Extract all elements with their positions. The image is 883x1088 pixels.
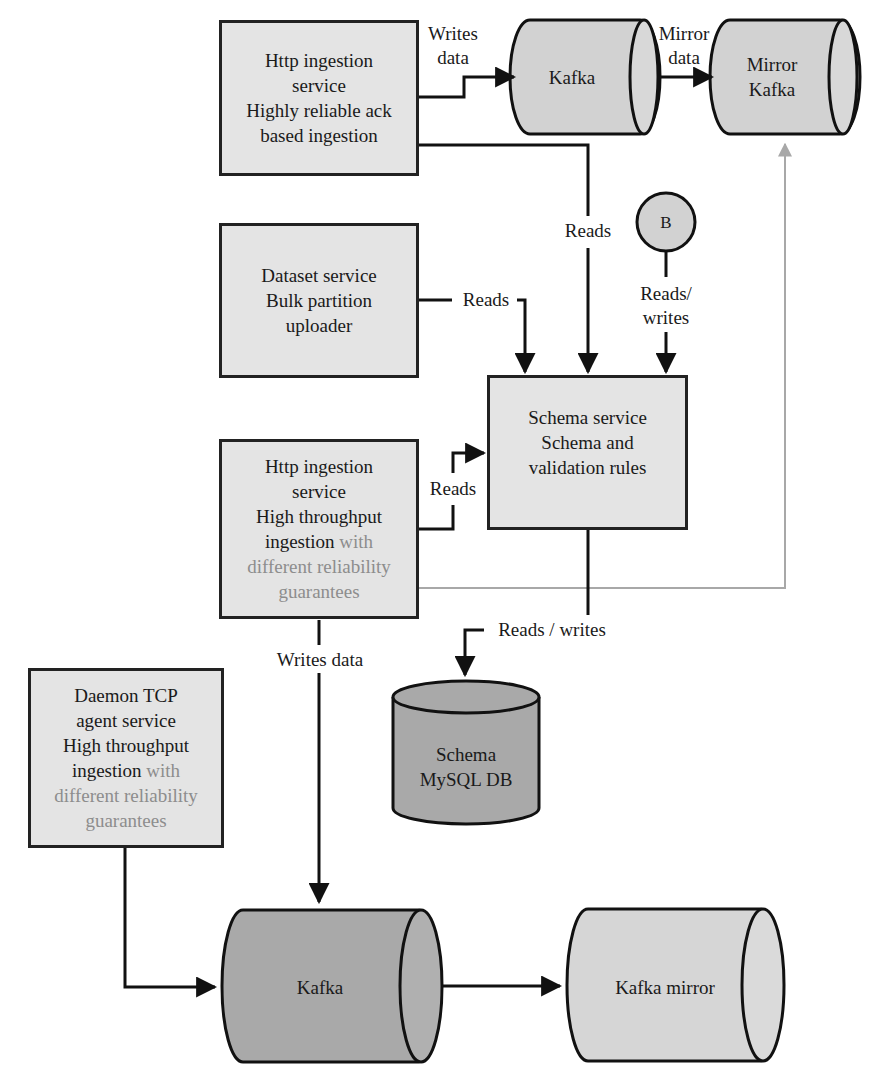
http-reliable-ingestion-box: Http ingestion service Highly reliable a… (219, 20, 419, 176)
label-text: Reads (565, 220, 611, 241)
box-line: Dataset service (261, 263, 377, 288)
box-line: Highly reliable ack (246, 98, 392, 123)
edge-daemon-to-kafka (125, 846, 215, 987)
label-text: data (423, 46, 483, 70)
edge-label-writes-data-top: Writes data (423, 22, 483, 70)
label-text: Kafka (297, 975, 343, 1000)
label-text: Kafka (549, 65, 595, 90)
label-text: B (660, 210, 671, 235)
edge-label-reads-http-top: Reads (558, 219, 618, 243)
box-line-muted: guarantees (54, 808, 198, 833)
box-line: Schema and (528, 430, 647, 455)
text-muted: with (142, 760, 181, 781)
box-line-mixed: ingestion with (247, 529, 391, 554)
edge-label-reads-http-mid: Reads (424, 477, 482, 501)
dataset-service-box: Dataset service Bulk partition uploader (219, 223, 419, 378)
edge-label-writes-data-mid: Writes data (268, 648, 372, 672)
text-dark: ingestion (265, 531, 335, 552)
label-text: Schema (436, 742, 496, 767)
edge-reads-http-mid (417, 505, 453, 529)
label-text: Reads / writes (498, 619, 606, 640)
box-line: uploader (261, 313, 377, 338)
label-text: Reads/ (628, 282, 704, 306)
label-text: writes (628, 306, 704, 330)
box-line-muted: guarantees (247, 579, 391, 604)
schema-db-label: Schema MySQL DB (393, 740, 539, 794)
edge-reads-dataset (517, 300, 525, 372)
label-text: data (653, 46, 715, 70)
daemon-tcp-agent-box: Daemon TCP agent service High throughput… (28, 668, 224, 848)
label-text: Writes data (277, 649, 363, 670)
box-line: Daemon TCP (54, 683, 198, 708)
edge-label-reads-writes-db: Reads / writes (490, 618, 614, 642)
label-text: Reads (430, 478, 476, 499)
kafka-bottom-label: Kafka (250, 970, 390, 1004)
box-line: service (246, 73, 392, 98)
b-circle-label: B (646, 208, 686, 236)
box-line: validation rules (528, 455, 647, 480)
label-text: Reads (463, 289, 509, 310)
box-line: High throughput (54, 733, 198, 758)
edge-reads-http-top (417, 145, 588, 216)
kafka-top-label: Kafka (512, 60, 632, 94)
label-text: Mirror (747, 52, 798, 77)
text-dark: ingestion (72, 760, 142, 781)
mirror-kafka-top-label: Mirror Kafka (712, 50, 832, 104)
label-text: Kafka mirror (615, 975, 715, 1000)
kafka-mirror-bottom-label: Kafka mirror (590, 970, 740, 1004)
box-line: Bulk partition (261, 288, 377, 313)
box-line-muted: different reliability (247, 554, 391, 579)
box-line: Http ingestion (247, 454, 391, 479)
label-text: Writes (423, 22, 483, 46)
edge-writes-data-top (417, 77, 514, 97)
box-line: High throughput (247, 504, 391, 529)
edge-reads-writes-db (465, 630, 484, 675)
box-line-mixed: ingestion with (54, 758, 198, 783)
text-muted: with (335, 531, 374, 552)
box-line: Http ingestion (246, 48, 392, 73)
http-throughput-ingestion-box: Http ingestion service High throughput i… (219, 439, 419, 619)
schema-service-box: Schema service Schema and validation rul… (487, 375, 688, 530)
label-text: MySQL DB (420, 767, 513, 792)
edge-label-reads-dataset: Reads (456, 288, 516, 312)
label-text: Mirror (653, 22, 715, 46)
box-line: service (247, 479, 391, 504)
box-line: Schema service (528, 405, 647, 430)
edge-label-reads-writes-b: Reads/ writes (628, 282, 704, 330)
box-line: based ingestion (246, 123, 392, 148)
diagram-canvas (0, 0, 883, 1088)
box-line-muted: different reliability (54, 783, 198, 808)
label-text: Kafka (749, 77, 795, 102)
box-line: agent service (54, 708, 198, 733)
edge-label-mirror-data: Mirror data (653, 22, 715, 70)
